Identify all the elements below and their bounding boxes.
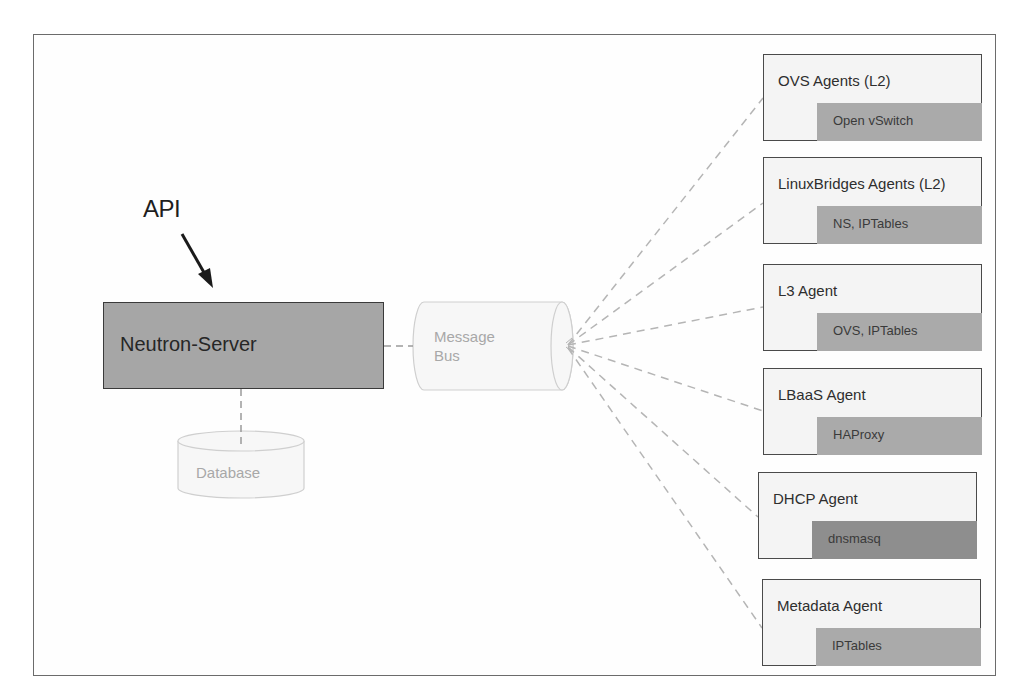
agent-backend-box: IPTables [816,628,981,666]
agent-backend-box: dnsmasq [812,521,977,559]
message-bus-label-line2: Bus [434,346,534,365]
agent-backend-box: NS, IPTables [817,206,982,244]
neutron-server-box: Neutron-Server [103,302,384,389]
agent-title: LinuxBridges Agents (L2) [778,174,968,194]
agent-title: Metadata Agent [777,596,977,616]
api-arrow-icon [182,234,213,288]
agent-title: L3 Agent [778,281,978,301]
agent-backend-box: Open vSwitch [817,103,982,141]
api-label: API [143,195,180,223]
database-label: Database [196,464,260,481]
agent-backend-label: IPTables [832,638,882,653]
agent-backend-label: HAProxy [833,427,884,442]
neutron-server-label: Neutron-Server [120,333,257,356]
message-bus-label-line1: Message [434,327,534,346]
agent-box-lbaas: LBaaS Agent HAProxy [763,368,982,455]
agent-title: DHCP Agent [773,489,973,509]
agent-box-l3: L3 Agent OVS, IPTables [763,264,982,351]
agent-title: LBaaS Agent [778,385,978,405]
agent-box-ovs: OVS Agents (L2) Open vSwitch [763,54,982,141]
agent-backend-label: dnsmasq [828,531,881,546]
agent-box-metadata: Metadata Agent IPTables [762,579,981,666]
agent-backend-box: HAProxy [817,417,982,455]
message-bus-label: Message Bus [434,327,534,365]
fan-connectors [568,98,763,628]
agent-box-dhcp: DHCP Agent dnsmasq [758,472,977,559]
agent-backend-label: OVS, IPTables [833,323,918,338]
agent-backend-label: Open vSwitch [833,113,913,128]
agent-backend-box: OVS, IPTables [817,313,982,351]
agent-backend-label: NS, IPTables [833,216,908,231]
agent-box-linuxbridges: LinuxBridges Agents (L2) NS, IPTables [763,157,982,244]
agent-title: OVS Agents (L2) [778,71,978,91]
